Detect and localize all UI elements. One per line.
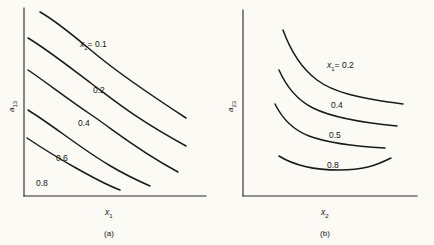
curve-label-a-4: 0.6 bbox=[56, 153, 68, 163]
curve-label-a-3: 0.4 bbox=[78, 118, 90, 128]
figure-container: x2= 0.1 0.2 0.4 0.6 0.8 a13 x1 (a) x1= 0… bbox=[0, 0, 434, 245]
panel-b: x1= 0.2 0.4 0.5 0.8 a23 x2 (b) bbox=[217, 0, 434, 245]
curve-label-b-4: 0.8 bbox=[327, 160, 339, 170]
curve-a-2 bbox=[28, 38, 186, 146]
curve-label-a-1: x2= 0.1 bbox=[79, 39, 107, 51]
curve-label-a-2: 0.2 bbox=[93, 85, 105, 95]
panel-a-y-axis-label: a13 bbox=[7, 100, 18, 112]
curve-b-2 bbox=[279, 70, 397, 126]
curve-a-1 bbox=[40, 12, 186, 118]
panel-a-plot: x2= 0.1 0.2 0.4 0.6 0.8 a13 x1 (a) bbox=[0, 0, 217, 245]
curve-b-3 bbox=[275, 104, 385, 148]
panel-b-plot: x1= 0.2 0.4 0.5 0.8 a23 x2 (b) bbox=[217, 0, 434, 245]
panel-b-caption: (b) bbox=[320, 229, 330, 238]
panel-a-caption: (a) bbox=[104, 229, 114, 238]
curve-label-b-3: 0.5 bbox=[329, 130, 341, 140]
panel-a-x-axis-label: x1 bbox=[104, 207, 113, 219]
panel-b-x-axis-label: x2 bbox=[320, 207, 329, 219]
curve-label-b-2: 0.4 bbox=[331, 100, 343, 110]
curve-label-a-5: 0.8 bbox=[36, 178, 48, 188]
panel-a: x2= 0.1 0.2 0.4 0.6 0.8 a13 x1 (a) bbox=[0, 0, 217, 245]
curve-label-b-1: x1= 0.2 bbox=[326, 60, 354, 72]
panel-b-y-axis-label: a23 bbox=[226, 100, 237, 112]
